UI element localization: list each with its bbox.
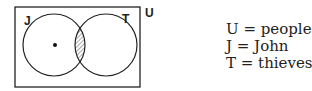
legend-item-j: J = John — [226, 38, 312, 55]
legend-item-u: U = people — [226, 21, 312, 38]
label-u: U — [145, 6, 154, 20]
legend: U = people J = John T = thieves — [226, 21, 312, 72]
label-j: J — [24, 14, 31, 28]
legend-item-t: T = thieves — [226, 55, 312, 72]
point-dot — [53, 43, 57, 47]
label-t: T — [122, 12, 130, 26]
